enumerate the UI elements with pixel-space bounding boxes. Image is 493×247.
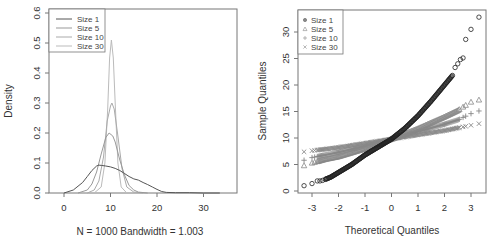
x-tick-label: 10 — [105, 202, 116, 213]
y-axis-label: Density — [3, 84, 14, 117]
y-tick-label: 0.2 — [31, 126, 42, 139]
density-line — [78, 133, 148, 193]
y-tick-label: 0.6 — [31, 6, 42, 19]
y-tick-label: 5 — [280, 162, 291, 167]
density-plot: 0102030 0.00.10.20.30.40.50.6 N = 1000 B… — [3, 6, 237, 237]
legend-item: Size 30 — [311, 43, 338, 52]
x-tick-label: 2 — [442, 202, 447, 213]
x-axis: 0102030 — [61, 193, 208, 213]
legend-item: Size 10 — [311, 34, 338, 43]
y-tick-label: 0.4 — [31, 66, 42, 79]
y-tick-label: 30 — [280, 27, 291, 38]
x-axis-label: N = 1000 Bandwidth = 1.003 — [77, 226, 204, 237]
x-tick-label: 0 — [61, 202, 66, 213]
chart-canvas: 0102030 0.00.10.20.30.40.50.6 N = 1000 B… — [0, 0, 493, 247]
legend-item: Size 10 — [77, 33, 104, 42]
x-tick-label: 20 — [152, 202, 163, 213]
y-axis: 051015202530 — [280, 27, 298, 194]
x-tick-label: 1 — [415, 202, 420, 213]
y-tick-label: 0.5 — [31, 36, 42, 49]
density-curves — [64, 40, 220, 193]
y-tick-label: 0.3 — [31, 96, 42, 109]
x-axis-label: Theoretical Quantiles — [345, 225, 440, 236]
legend: Size 1Size 5Size 10Size 30 — [49, 9, 105, 52]
x-tick-label: -3 — [308, 202, 316, 213]
legend-item: Size 5 — [311, 25, 334, 34]
x-tick-label: 0 — [389, 202, 394, 213]
y-tick-label: 20 — [280, 80, 291, 91]
legend: Size 1Size 5Size 10Size 30 — [298, 10, 343, 54]
x-axis: -3-2-10123 — [308, 193, 474, 213]
x-tick-label: -2 — [334, 202, 342, 213]
y-tick-label: 10 — [280, 133, 291, 144]
qq-plot: -3-2-10123 051015202530 Theoretical Quan… — [257, 10, 486, 236]
x-tick-label: -1 — [361, 202, 369, 213]
density-line — [64, 165, 220, 193]
y-axis-label: Sample Quantiles — [257, 62, 268, 141]
x-tick-label: 30 — [198, 202, 209, 213]
legend-item: Size 5 — [77, 24, 100, 33]
y-axis: 0.00.10.20.30.40.50.6 — [31, 6, 49, 199]
legend-item: Size 1 — [77, 15, 100, 24]
legend-item: Size 1 — [311, 16, 334, 25]
y-tick-label: 25 — [280, 53, 291, 64]
y-tick-label: 0.1 — [31, 156, 42, 169]
y-tick-label: 0.0 — [31, 186, 42, 199]
x-tick-label: 3 — [468, 202, 473, 213]
y-tick-label: 15 — [280, 106, 291, 117]
y-tick-label: 0 — [280, 188, 291, 193]
legend-item: Size 30 — [77, 42, 104, 51]
